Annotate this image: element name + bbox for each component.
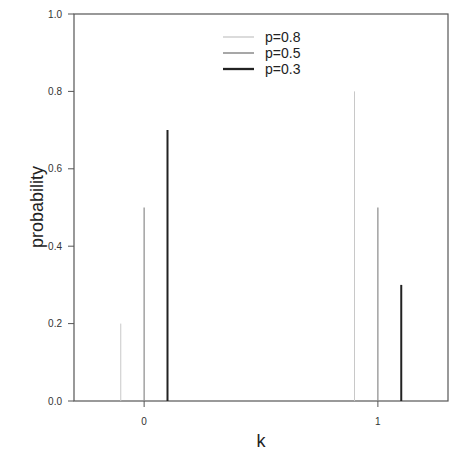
legend: p=0.8p=0.5p=0.3 [223,29,301,77]
x-tick-label: 1 [375,416,381,427]
stem-chart: 0.00.20.40.60.81.0 01 p=0.8p=0.5p=0.3 pr… [0,0,454,453]
legend-label: p=0.3 [265,61,301,77]
plot-frame [74,14,448,401]
y-tick-label: 1.0 [48,9,62,20]
y-axis: 0.00.20.40.60.81.0 [48,9,74,407]
y-tick-label: 0.0 [48,396,62,407]
legend-label: p=0.5 [265,45,301,61]
y-tick-label: 0.4 [48,241,62,252]
legend-label: p=0.8 [265,29,301,45]
x-axis-label: k [257,431,267,451]
x-axis: 01 [141,401,381,427]
y-tick-label: 0.2 [48,318,62,329]
y-tick-label: 0.6 [48,163,62,174]
y-axis-label: probability [27,166,47,248]
x-tick-label: 0 [141,416,147,427]
stems [121,91,402,401]
plot-border [74,14,448,401]
y-tick-label: 0.8 [48,86,62,97]
